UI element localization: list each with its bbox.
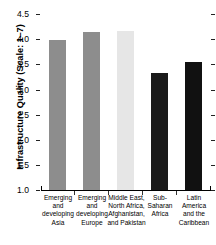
cat-line: Saharan: [142, 202, 178, 210]
y-tick-3.5: 3.5: [36, 64, 40, 65]
cat-line: and Pakistan: [104, 219, 149, 227]
infrastructure-quality-bar-chart: Infrastructure Quality (Scale: 1–7) 4.5 …: [0, 0, 216, 245]
y-tick-label-3.0: 3.0: [17, 85, 29, 95]
y-tick-label-2.0: 2.0: [17, 135, 29, 145]
y-tick-right-1.0: [211, 190, 215, 191]
y-tick-right-2.5: [211, 115, 215, 116]
y-tick-3.0: 3.0: [36, 90, 40, 91]
y-tick-right-2.0: [211, 140, 215, 141]
x-axis-left-cap: [41, 186, 42, 191]
bar-sub-saharan-africa[interactable]: [151, 73, 168, 190]
cat-line: and the: [174, 210, 214, 218]
category-label-latin-america-caribbean: Latin America and the Caribbean: [174, 194, 214, 227]
cat-line: Sub-: [142, 194, 178, 202]
category-labels: Emerging and developing Asia Emerging an…: [41, 194, 211, 242]
y-tick-right-4.5: [211, 14, 215, 15]
cat-line: Africa: [142, 210, 178, 218]
y-tick-1.0: 1.0: [36, 190, 40, 191]
bar-emerging-developing-europe[interactable]: [83, 32, 100, 190]
y-tick-label-2.5: 2.5: [17, 110, 29, 120]
y-tick-2.0: 2.0: [36, 140, 40, 141]
bar-emerging-developing-asia[interactable]: [49, 40, 66, 190]
bar-latin-america-caribbean[interactable]: [185, 62, 202, 190]
cat-line: Latin: [174, 194, 214, 202]
y-tick-1.5: 1.5: [36, 165, 40, 166]
bar-middle-east-north-africa[interactable]: [117, 31, 134, 190]
cat-line: Caribbean: [174, 219, 214, 227]
category-label-sub-saharan-africa: Sub- Saharan Africa: [142, 194, 178, 219]
y-tick-right-3.5: [211, 64, 215, 65]
y-tick-right-1.5: [211, 165, 215, 166]
y-tick-right-3.0: [211, 90, 215, 91]
plot-area: 4.5 4.0 3.5 3.0 2.5 2.0 1.5 1.0: [41, 10, 211, 194]
y-tick-label-4.5: 4.5: [17, 9, 29, 19]
y-tick-label-4.0: 4.0: [17, 34, 29, 44]
x-axis-right-cap: [210, 186, 211, 191]
y-tick-4.0: 4.0: [36, 39, 40, 40]
y-tick-2.5: 2.5: [36, 115, 40, 116]
y-tick-label-3.5: 3.5: [17, 59, 29, 69]
x-axis-line: [41, 190, 211, 191]
cat-line: America: [174, 202, 214, 210]
y-tick-label-1.0: 1.0: [17, 185, 29, 195]
y-tick-label-1.5: 1.5: [17, 160, 29, 170]
y-tick-4.5: 4.5: [36, 14, 40, 15]
y-tick-right-4.0: [211, 39, 215, 40]
